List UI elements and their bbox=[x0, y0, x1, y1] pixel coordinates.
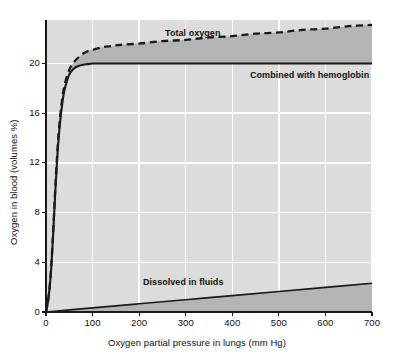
y-tick-label: 20 bbox=[20, 57, 40, 68]
x-axis-title: Oxygen partial pressure in lungs (mm Hg) bbox=[0, 337, 394, 348]
x-tick-label: 200 bbox=[119, 317, 159, 328]
x-tick-label: 600 bbox=[305, 317, 345, 328]
x-tick-label: 0 bbox=[26, 317, 66, 328]
x-tick-label: 500 bbox=[259, 317, 299, 328]
series-label-total-oxygen: Total oxygen bbox=[165, 28, 220, 38]
x-tick-label: 300 bbox=[166, 317, 206, 328]
series-label-combined-hemoglobin: Combined with hemoglobin bbox=[250, 70, 369, 80]
y-tick-label: 0 bbox=[20, 306, 40, 317]
y-tick-label: 8 bbox=[20, 206, 40, 217]
chart-figure: 048121620 0100200300400500600700 Oxygen … bbox=[0, 0, 394, 356]
y-tick-label: 16 bbox=[20, 107, 40, 118]
y-tick-label: 4 bbox=[20, 256, 40, 267]
y-axis-title: Oxygen in blood (volumes %) bbox=[8, 120, 19, 245]
y-tick-label: 12 bbox=[20, 156, 40, 167]
chart-plot-area bbox=[0, 0, 394, 356]
x-tick-label: 100 bbox=[73, 317, 113, 328]
x-tick-label: 700 bbox=[352, 317, 392, 328]
series-label-dissolved-fluids: Dissolved in fluids bbox=[143, 277, 223, 287]
x-tick-label: 400 bbox=[212, 317, 252, 328]
